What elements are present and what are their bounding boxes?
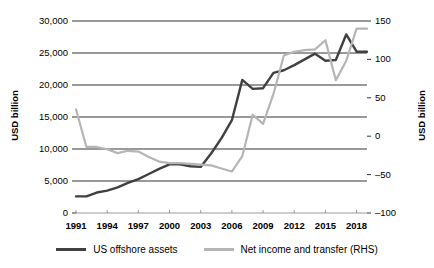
legend-line-icon xyxy=(56,248,86,251)
legend-item-us-offshore-assets: US offshore assets xyxy=(56,244,177,255)
legend-item-net-income-and-transfer: Net income and transfer (RHS) xyxy=(204,244,378,255)
legend-label: US offshore assets xyxy=(93,244,177,255)
chart-legend: US offshore assets Net income and transf… xyxy=(0,244,434,255)
legend-line-icon xyxy=(204,248,234,251)
chart-container: USD billion USD billion 05,00010,00015,0… xyxy=(0,0,434,268)
plot-area xyxy=(0,0,434,268)
gridlines xyxy=(76,21,367,181)
legend-label: Net income and transfer (RHS) xyxy=(241,244,378,255)
series-lines xyxy=(76,29,367,197)
